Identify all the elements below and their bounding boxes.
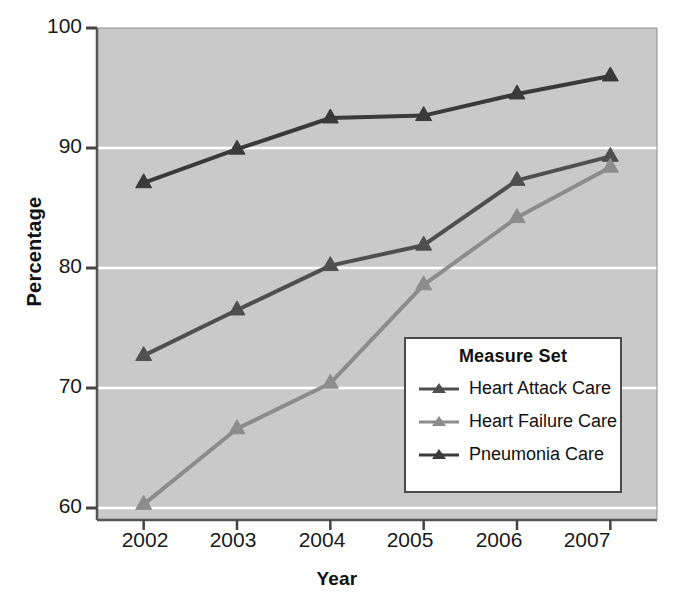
plot-area [0,0,674,601]
legend-item-label: Heart Attack Care [469,378,611,399]
legend-item-label: Pneumonia Care [469,444,604,465]
legend-marker-icon [418,447,460,463]
legend: Measure Set Heart Attack CareHeart Failu… [404,337,622,493]
legend-item-label: Heart Failure Care [469,411,617,432]
legend-item-pneumonia-care[interactable]: Pneumonia Care [406,438,620,471]
legend-marker-icon [418,414,460,430]
line-chart: Percentage Year 100 90 80 70 60 2002 200… [0,0,674,601]
legend-item-heart-attack-care[interactable]: Heart Attack Care [406,372,620,405]
legend-title: Measure Set [406,346,620,367]
legend-item-heart-failure-care[interactable]: Heart Failure Care [406,405,620,438]
legend-items: Heart Attack CareHeart Failure CarePneum… [406,372,620,471]
legend-marker-icon [418,381,460,397]
